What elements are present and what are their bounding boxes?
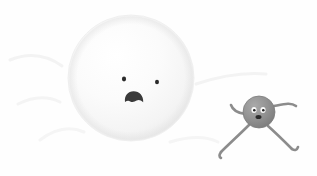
small-ball-right-eye-pupil <box>262 109 265 112</box>
big-ball-edge-shade <box>68 15 194 141</box>
illustration-canvas <box>0 0 317 176</box>
small-ball-left-foot <box>220 152 222 158</box>
small-ball-mouth <box>256 115 262 119</box>
big-ball-left-eye <box>122 77 126 82</box>
large-pale-ball-character <box>68 15 194 141</box>
big-ball-right-eye <box>155 80 159 85</box>
small-ball-left-eye-pupil <box>253 109 256 112</box>
small-ball-body <box>243 96 275 128</box>
illustration-svg <box>0 0 317 176</box>
